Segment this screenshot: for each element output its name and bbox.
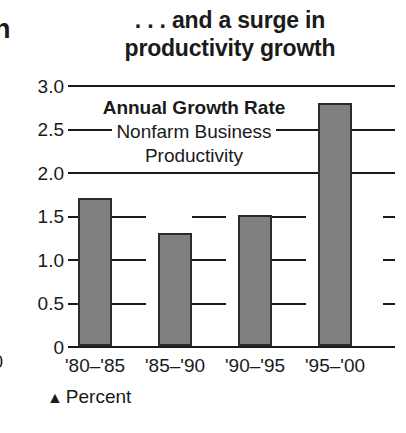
- gridline-stub-right-1_5: [383, 216, 395, 218]
- gridline-seg-0_5-a: [112, 303, 146, 305]
- annotation-subtitle-line-1: Nonfarm Business: [112, 120, 275, 143]
- chart-unit-label: Percent: [66, 386, 131, 407]
- bar-85-90: [158, 233, 192, 346]
- bar-90-95: [238, 215, 272, 346]
- x-axis-tick-label-85-90: '85–'90: [135, 355, 215, 377]
- y-axis-tick-label-2_5: 2.5: [8, 120, 64, 139]
- y-axis-tick-label-2_0: 2.0: [8, 164, 64, 183]
- gridline-seg-1_5-c: [272, 216, 306, 218]
- y-axis-tick-label-1_0: 1.0: [8, 251, 64, 270]
- y-axis-tick-label-1_5: 1.5: [8, 207, 64, 226]
- gridline-stub-right-0_5: [383, 303, 395, 305]
- annotation-subtitle-line-2: Productivity: [141, 144, 247, 167]
- x-axis-baseline: [68, 346, 395, 348]
- gridline-seg-0_5-b: [192, 303, 226, 305]
- gridline-seg-0_5-c: [272, 303, 306, 305]
- x-axis-tick-label-80-85: '80–'85: [55, 355, 135, 377]
- y-axis-tick-label-0_5: 0.5: [8, 294, 64, 313]
- x-axis-tick-label-95-00: '95–'00: [295, 355, 375, 377]
- gridline-3_0: [68, 85, 395, 87]
- chart-plot-area: 3.0 2.5 2.0 1.5 1.0 0.5 0 '80–'85 '85–'9…: [0, 0, 406, 433]
- annotation-heading: Annual Growth Rate: [100, 97, 289, 119]
- bar-80-85: [78, 198, 112, 346]
- gridline-seg-1_5-a: [112, 216, 146, 218]
- gridline-stub-right-1_0: [383, 259, 395, 261]
- gridline-seg-1_0-c: [272, 259, 306, 261]
- gridline-seg-1_0-b: [192, 259, 226, 261]
- gridline-seg-1_5-b: [192, 216, 226, 218]
- x-axis-tick-label-90-95: '90–'95: [215, 355, 295, 377]
- y-axis-tick-label-3_0: 3.0: [8, 77, 64, 96]
- gridline-seg-1_0-a: [112, 259, 146, 261]
- triangle-marker-icon: ▲: [47, 389, 63, 406]
- chart-annotation: Annual Growth Rate Nonfarm Business Prod…: [78, 97, 310, 167]
- bar-95-00: [318, 103, 352, 346]
- chart-unit-footnote: ▲Percent: [47, 386, 131, 409]
